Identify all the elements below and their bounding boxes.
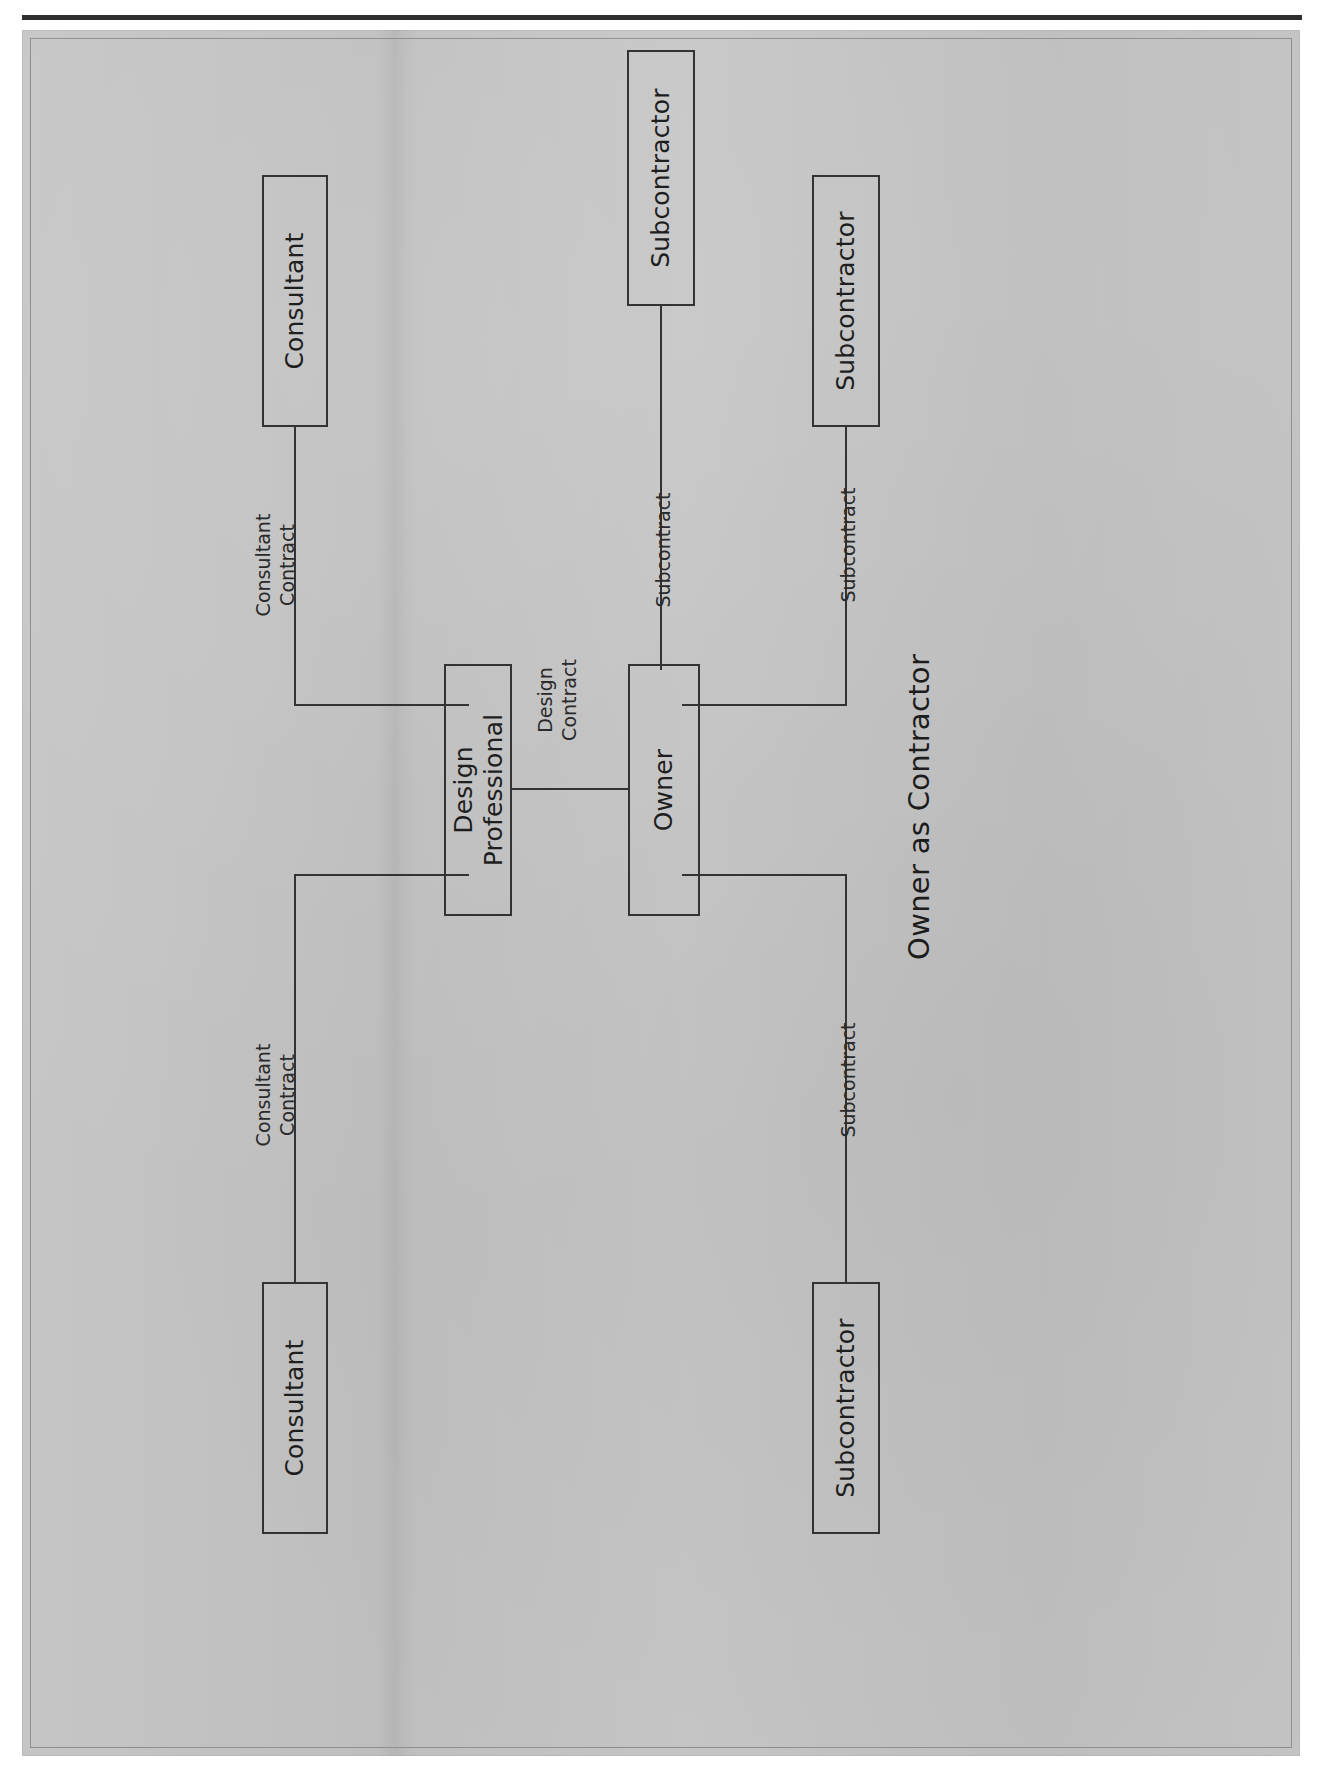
- edge-design-consultant-top-horizontal: [294, 704, 469, 706]
- edge-design-consultant-bottom-horizontal: [294, 874, 469, 876]
- node-design-professional[interactable]: Design Professional: [444, 664, 512, 916]
- node-owner[interactable]: Owner: [628, 664, 700, 916]
- node-subcontractor-3[interactable]: Subcontractor: [812, 1282, 880, 1534]
- node-subcontractor-1-label: Subcontractor: [646, 88, 676, 268]
- figure-caption: Owner as Contractor: [902, 654, 936, 960]
- edge-label-design-consultant-bottom: Consultant Contract: [252, 1000, 300, 1190]
- node-subcontractor-2-label: Subcontractor: [831, 211, 861, 391]
- edge-owner-design-professional: [512, 788, 630, 790]
- edge-label-owner-subcontractor-3: Subcontract: [837, 985, 861, 1175]
- node-consultant-top[interactable]: Consultant: [262, 175, 328, 427]
- edge-label-owner-subcontractor-2: Subcontract: [837, 450, 861, 640]
- edge-label-owner-design-professional: Design Contract: [534, 625, 582, 775]
- edge-label-design-consultant-top: Consultant Contract: [252, 470, 300, 660]
- page-scan-area: Subcontractor Consultant Subcontractor D…: [22, 30, 1300, 1756]
- edge-owner-subcontractor-3-horizontal: [682, 874, 847, 876]
- node-subcontractor-2[interactable]: Subcontractor: [812, 175, 880, 427]
- scanned-page: Subcontractor Consultant Subcontractor D…: [0, 0, 1324, 1774]
- node-subcontractor-3-label: Subcontractor: [831, 1318, 861, 1498]
- edge-label-owner-subcontractor-1: Subcontract: [652, 455, 676, 645]
- node-owner-label: Owner: [649, 749, 679, 832]
- node-consultant-bottom[interactable]: Consultant: [262, 1282, 328, 1534]
- node-consultant-bottom-label: Consultant: [280, 1339, 310, 1476]
- page-top-rule: [22, 15, 1302, 20]
- node-design-professional-label: Design Professional: [449, 714, 508, 867]
- edge-owner-subcontractor-2-horizontal: [682, 704, 847, 706]
- contract-relationship-diagram: Subcontractor Consultant Subcontractor D…: [22, 30, 1300, 1756]
- node-subcontractor-1[interactable]: Subcontractor: [627, 50, 695, 306]
- node-consultant-top-label: Consultant: [280, 232, 310, 369]
